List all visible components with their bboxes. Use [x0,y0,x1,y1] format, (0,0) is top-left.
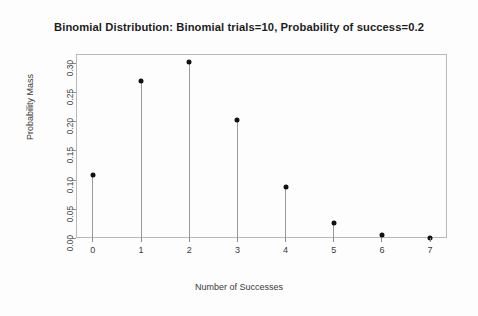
x-tick-mark [430,238,431,242]
x-axis: 01234567 [76,238,447,262]
x-tick-label: 2 [187,245,192,255]
x-tick-label: 6 [379,245,384,255]
data-point-marker [139,79,144,84]
x-tick-mark [237,238,238,242]
y-tick-label: 0.20 [65,118,75,134]
x-axis-title: Number of Successes [0,282,478,292]
x-tick-mark [189,238,190,242]
data-point-marker [235,118,240,123]
data-point-marker [90,173,95,178]
data-point-marker [379,232,384,237]
x-tick-label: 1 [139,245,144,255]
y-tick-label: 0.30 [65,60,75,76]
x-tick-mark [333,238,334,242]
y-tick-label: 0.15 [65,147,75,163]
plot-area [76,54,447,238]
data-point-marker [331,220,336,225]
x-tick-label: 4 [283,245,288,255]
y-tick-label: 0.05 [65,206,75,222]
y-tick-label: 0.00 [65,235,75,251]
stem-line [141,81,142,238]
x-tick-label: 0 [90,245,95,255]
x-tick-label: 3 [235,245,240,255]
y-tick-label: 0.10 [65,176,75,192]
chart-figure: Binomial Distribution: Binomial trials=1… [0,0,478,316]
x-tick-mark [92,238,93,242]
x-tick-mark [141,238,142,242]
x-tick-label: 5 [331,245,336,255]
x-tick-label: 7 [428,245,433,255]
x-tick-mark [285,238,286,242]
stem-line [189,62,190,238]
data-point-marker [187,59,192,64]
x-tick-mark [381,238,382,242]
stem-line [92,175,93,238]
stem-line [285,187,286,238]
y-tick-label: 0.25 [65,89,75,105]
y-axis-title: Probability Mass [25,62,35,152]
data-point-marker [283,184,288,189]
chart-title: Binomial Distribution: Binomial trials=1… [0,21,478,33]
stem-line [237,120,238,238]
